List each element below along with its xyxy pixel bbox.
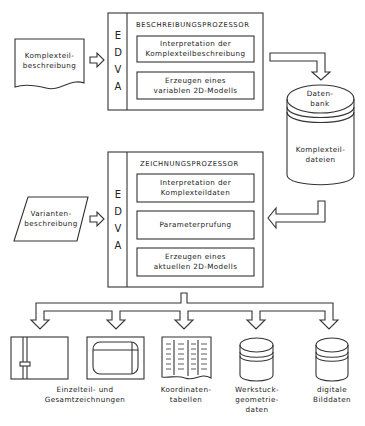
output-label-bilddaten: digitale Bilddaten (304, 385, 360, 405)
arrow-right-icon (90, 53, 104, 67)
bp-step-1: Interpretation der Komplexteilbeschreibu… (137, 39, 254, 59)
distribution-arrows (31, 293, 338, 329)
zp-step-1: Interpretation der Komplexteildaten (137, 178, 254, 198)
database-icon (316, 338, 348, 381)
output-label-koordinaten: Koordinaten- tabellen (156, 385, 216, 405)
table-document-icon (162, 337, 211, 379)
zp-edva-label: E D V A (111, 186, 125, 254)
drawing-sheet-icon (11, 337, 68, 379)
bp-title: BESCHREIBUNGSPROZESSOR (136, 20, 249, 30)
screen-drawing-icon (87, 337, 144, 379)
output-label-zeichnungen: Einzelteil- und Gesamtzeichnungen (35, 385, 135, 405)
varianten-label: Varianten- beschreibung (18, 209, 84, 229)
bp-edva-label: E D V A (111, 27, 125, 95)
output-label-werkstueck: Werkstuck- geometrie- daten (228, 385, 286, 415)
zp-step-2: Parameterprufung (137, 220, 254, 230)
bp-step-2: Erzeugen eines variablen 2D-Modells (137, 76, 254, 96)
zp-title: ZEICHNUNGSPROZESSOR (140, 159, 239, 169)
arrow-to-zeichnungsprozessor-icon (268, 201, 325, 228)
komplexteil-label: Komplexteil- beschreibung (15, 51, 84, 71)
datenbank-top-label: Daten- bank (295, 89, 345, 109)
datenbank-body-label: Komplexteil- dateien (287, 145, 354, 165)
database-icon (240, 338, 273, 381)
arrow-to-database-icon (270, 53, 330, 80)
arrow-right-icon (90, 212, 104, 226)
database-cylinder (287, 99, 354, 185)
zp-step-3: Erzeugen eines aktuellen 2D-Modells (137, 252, 254, 272)
